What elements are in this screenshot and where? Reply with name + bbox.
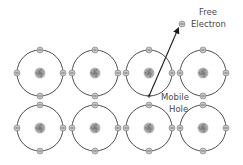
electron	[146, 47, 152, 53]
electron	[92, 102, 98, 108]
free-electron-label-line1: Free	[199, 7, 217, 17]
electron	[37, 102, 43, 108]
electron	[37, 93, 43, 99]
electron	[200, 93, 206, 99]
electron	[146, 102, 152, 108]
electron	[115, 125, 121, 131]
electron	[200, 148, 206, 154]
electron	[92, 47, 98, 53]
atom	[123, 102, 175, 154]
electron	[123, 125, 129, 131]
electron	[146, 148, 152, 154]
electron	[123, 70, 129, 76]
free-electron	[179, 21, 185, 27]
electron	[177, 70, 183, 76]
electron	[37, 148, 43, 154]
electron	[37, 47, 43, 53]
electron	[69, 70, 75, 76]
electron	[60, 125, 66, 131]
atom	[14, 47, 66, 99]
free-electron-label-line2: Electron	[191, 19, 226, 29]
mobile-hole-label-line2: Hole	[169, 104, 188, 114]
electron	[92, 93, 98, 99]
electron	[14, 70, 20, 76]
atom	[69, 102, 121, 154]
electron	[169, 70, 175, 76]
mobile-hole-label-line1: Mobile	[161, 92, 189, 102]
electron	[169, 125, 175, 131]
electron	[92, 148, 98, 154]
atom-lattice	[14, 47, 229, 154]
electron	[223, 70, 229, 76]
electron	[115, 70, 121, 76]
electron	[69, 125, 75, 131]
electron	[200, 47, 206, 53]
electron	[177, 125, 183, 131]
atom	[69, 47, 121, 99]
electron	[60, 70, 66, 76]
semiconductor-lattice-diagram: Free Electron Mobile Hole	[0, 0, 243, 165]
electron	[200, 102, 206, 108]
electron	[223, 125, 229, 131]
electron	[14, 125, 20, 131]
free-electron-dot	[179, 21, 185, 27]
electron-escape-arrow	[149, 29, 178, 96]
atom	[14, 102, 66, 154]
